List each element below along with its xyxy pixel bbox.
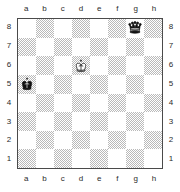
file-label-g-top: g (127, 2, 145, 16)
square-f1[interactable] (108, 149, 126, 168)
square-g3[interactable] (126, 112, 144, 131)
square-b6[interactable] (36, 56, 54, 75)
square-d8[interactable] (72, 19, 90, 38)
rank-label-1-left: 1 (2, 150, 16, 169)
rank-label-4-left: 4 (2, 94, 16, 113)
square-d6[interactable] (72, 56, 90, 75)
rank-label-8-left: 8 (2, 18, 16, 37)
square-e2[interactable] (90, 131, 108, 150)
square-f5[interactable] (108, 75, 126, 94)
file-label-a-top: a (17, 2, 35, 16)
square-g5[interactable] (126, 75, 144, 94)
square-d2[interactable] (72, 131, 90, 150)
square-h8[interactable] (144, 19, 162, 38)
square-g1[interactable] (126, 149, 144, 168)
file-label-f-bottom: f (108, 172, 126, 186)
file-label-a-bottom: a (17, 172, 35, 186)
square-h5[interactable] (144, 75, 162, 94)
file-label-f-top: f (108, 2, 126, 16)
square-h4[interactable] (144, 94, 162, 113)
file-label-h-top: h (145, 2, 163, 16)
square-a7[interactable] (18, 38, 36, 57)
square-g7[interactable] (126, 38, 144, 57)
square-f3[interactable] (108, 112, 126, 131)
square-c3[interactable] (54, 112, 72, 131)
rank-label-7-left: 7 (2, 37, 16, 56)
square-e4[interactable] (90, 94, 108, 113)
square-a4[interactable] (18, 94, 36, 113)
square-g8[interactable] (126, 19, 144, 38)
square-e8[interactable] (90, 19, 108, 38)
square-b3[interactable] (36, 112, 54, 131)
square-f2[interactable] (108, 131, 126, 150)
square-h1[interactable] (144, 149, 162, 168)
square-d7[interactable] (72, 38, 90, 57)
rank-label-5-left: 5 (2, 75, 16, 94)
square-e1[interactable] (90, 149, 108, 168)
file-label-c-bottom: c (54, 172, 72, 186)
square-a2[interactable] (18, 131, 36, 150)
square-a1[interactable] (18, 149, 36, 168)
square-e6[interactable] (90, 56, 108, 75)
square-h3[interactable] (144, 112, 162, 131)
file-label-b-bottom: b (35, 172, 53, 186)
square-g2[interactable] (126, 131, 144, 150)
chessboard-grid (18, 19, 162, 168)
square-e7[interactable] (90, 38, 108, 57)
file-label-e-bottom: e (90, 172, 108, 186)
black-queen-icon[interactable] (126, 19, 144, 38)
file-label-g-bottom: g (127, 172, 145, 186)
square-e5[interactable] (90, 75, 108, 94)
square-f4[interactable] (108, 94, 126, 113)
square-c5[interactable] (54, 75, 72, 94)
rank-label-6-right: 6 (164, 56, 178, 75)
file-label-e-top: e (90, 2, 108, 16)
square-a8[interactable] (18, 19, 36, 38)
rank-label-2-left: 2 (2, 131, 16, 150)
rank-label-8-right: 8 (164, 18, 178, 37)
square-b4[interactable] (36, 94, 54, 113)
square-a5[interactable] (18, 75, 36, 94)
square-f7[interactable] (108, 38, 126, 57)
rank-label-3-right: 3 (164, 113, 178, 132)
square-d4[interactable] (72, 94, 90, 113)
square-c2[interactable] (54, 131, 72, 150)
square-b2[interactable] (36, 131, 54, 150)
square-g4[interactable] (126, 94, 144, 113)
square-b1[interactable] (36, 149, 54, 168)
file-labels-top: a b c d e f g h (17, 2, 163, 16)
file-label-c-top: c (54, 2, 72, 16)
square-d5[interactable] (72, 75, 90, 94)
square-c1[interactable] (54, 149, 72, 168)
chessboard-frame (17, 18, 163, 169)
square-d3[interactable] (72, 112, 90, 131)
rank-labels-left: 8 7 6 5 4 3 2 1 (2, 18, 16, 169)
rank-label-6-left: 6 (2, 56, 16, 75)
rank-label-5-right: 5 (164, 75, 178, 94)
square-c7[interactable] (54, 38, 72, 57)
square-b8[interactable] (36, 19, 54, 38)
square-g6[interactable] (126, 56, 144, 75)
square-h6[interactable] (144, 56, 162, 75)
square-b5[interactable] (36, 75, 54, 94)
square-h2[interactable] (144, 131, 162, 150)
square-a6[interactable] (18, 56, 36, 75)
square-c8[interactable] (54, 19, 72, 38)
square-h7[interactable] (144, 38, 162, 57)
rank-label-3-left: 3 (2, 113, 16, 132)
rank-label-7-right: 7 (164, 37, 178, 56)
square-b7[interactable] (36, 38, 54, 57)
white-king-icon[interactable] (72, 56, 90, 75)
square-a3[interactable] (18, 112, 36, 131)
square-c4[interactable] (54, 94, 72, 113)
rank-labels-right: 8 7 6 5 4 3 2 1 (164, 18, 178, 169)
square-e3[interactable] (90, 112, 108, 131)
square-c6[interactable] (54, 56, 72, 75)
square-f8[interactable] (108, 19, 126, 38)
black-king-icon[interactable] (18, 75, 36, 94)
file-labels-bottom: a b c d e f g h (17, 172, 163, 186)
square-f6[interactable] (108, 56, 126, 75)
rank-label-4-right: 4 (164, 94, 178, 113)
square-d1[interactable] (72, 149, 90, 168)
file-label-b-top: b (35, 2, 53, 16)
